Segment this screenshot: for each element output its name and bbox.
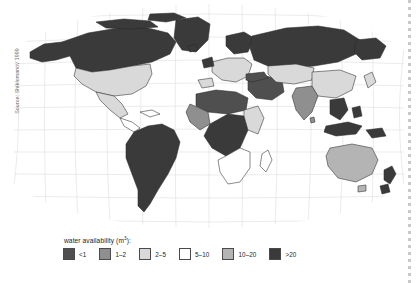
- legend-title: water availability (m3):: [64, 236, 393, 244]
- legend-swatch-gt-20: [269, 248, 281, 260]
- legend-swatch-lt-1: [63, 248, 75, 260]
- region-philippines: [352, 106, 362, 118]
- legend-swatch-2-5: [139, 248, 151, 260]
- region-central-asia: [268, 64, 314, 84]
- legend-swatch-10-20: [222, 248, 234, 260]
- world-map-figure: [0, 0, 419, 232]
- legend-label-5-10: 5–10: [195, 251, 209, 258]
- region-new-zealand-south: [380, 184, 390, 194]
- legend-label-gt-20: >20: [285, 251, 296, 258]
- map-legend: water availability (m3): <1 1–2 2–5 5–10…: [63, 236, 393, 260]
- legend-item-5-10[interactable]: 5–10: [179, 248, 209, 260]
- legend-label-2-5: 2–5: [155, 251, 166, 258]
- world-map-svg: [0, 0, 419, 232]
- legend-item-10-20[interactable]: 10–20: [222, 248, 256, 260]
- right-dotted-rule: [408, 0, 411, 283]
- source-credit: Source: Shiklomanov 1999: [14, 31, 20, 131]
- legend-item-2-5[interactable]: 2–5: [139, 248, 166, 260]
- legend-item-gt-20[interactable]: >20: [269, 248, 296, 260]
- region-tasmania: [358, 185, 366, 192]
- legend-swatch-5-10: [179, 248, 191, 260]
- legend-items: <1 1–2 2–5 5–10 10–20 >20: [63, 248, 393, 260]
- legend-title-tail: ):: [127, 237, 131, 244]
- legend-swatch-1-2: [99, 248, 111, 260]
- legend-title-text: water availability (m: [64, 237, 124, 244]
- legend-label-10-20: 10–20: [238, 251, 256, 258]
- legend-item-lt-1[interactable]: <1: [63, 248, 86, 260]
- legend-label-1-2: 1–2: [115, 251, 126, 258]
- legend-label-lt-1: <1: [79, 251, 86, 258]
- legend-item-1-2[interactable]: 1–2: [99, 248, 126, 260]
- region-sri-lanka: [310, 117, 315, 123]
